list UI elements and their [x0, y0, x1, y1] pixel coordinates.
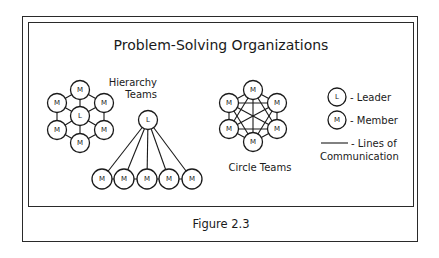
svg-text:M: M — [101, 99, 107, 107]
circle-member-node: M — [268, 120, 287, 139]
svg-text:M: M — [77, 86, 83, 94]
legend-line-label-1: - Lines of — [351, 138, 397, 149]
svg-text:M: M — [77, 139, 83, 147]
circle-teams-label: Circle Teams — [229, 162, 292, 173]
svg-text:L: L — [335, 93, 339, 101]
circle-member-node: M — [220, 94, 239, 113]
legend-member-icon: M — [328, 111, 346, 129]
svg-text:M: M — [99, 175, 105, 183]
circle-team: M M M M M M — [220, 81, 287, 152]
svg-text:M: M — [144, 175, 150, 183]
svg-text:L: L — [78, 112, 82, 120]
svg-text:M: M — [334, 116, 340, 124]
legend-leader-icon: L — [328, 88, 346, 106]
figure-caption: Figure 2.3 — [192, 217, 249, 231]
svg-text:M: M — [274, 99, 280, 107]
legend-member-label: - Member — [350, 115, 399, 126]
legend-leader-label: - Leader — [350, 92, 392, 103]
hex-member-node: M — [95, 121, 114, 140]
legend: L - Leader M - Member - Lines of Communi… — [320, 88, 399, 162]
hierarchy-label-line2: Teams — [124, 89, 157, 100]
svg-text:M: M — [54, 99, 60, 107]
hex-team: M M M L M M M — [48, 81, 114, 153]
svg-text:M: M — [226, 99, 232, 107]
svg-text:M: M — [250, 86, 256, 94]
hex-member-node: M — [71, 134, 90, 153]
circle-member-node: M — [220, 120, 239, 139]
diagram-title: Problem-Solving Organizations — [114, 37, 329, 53]
hex-member-node: M — [71, 81, 90, 100]
hex-member-node: M — [48, 94, 67, 113]
svg-text:M: M — [250, 138, 256, 146]
hex-member-node: M — [48, 121, 67, 140]
hierarchy-label-line1: Hierarchy — [109, 77, 157, 88]
hierarchy-member-node: M — [92, 169, 112, 189]
svg-text:M: M — [54, 126, 60, 134]
hierarchy-member-node: M — [182, 169, 202, 189]
svg-text:M: M — [121, 175, 127, 183]
hierarchy-member-node: M — [159, 169, 179, 189]
svg-text:M: M — [166, 175, 172, 183]
legend-line-label-2: Communication — [320, 151, 399, 162]
hex-member-node: M — [95, 94, 114, 113]
hierarchy-member-node: M — [137, 169, 157, 189]
svg-text:M: M — [274, 125, 280, 133]
circle-member-node: M — [268, 94, 287, 113]
hierarchy-member-node: M — [114, 169, 134, 189]
hierarchy-leader-node: L — [139, 111, 158, 130]
svg-text:M: M — [226, 125, 232, 133]
circle-member-node: M — [244, 81, 263, 100]
circle-member-node: M — [244, 133, 263, 152]
svg-text:M: M — [101, 126, 107, 134]
svg-text:M: M — [189, 175, 195, 183]
diagram-canvas: Problem-Solving Organizations M M M L M … — [0, 0, 439, 258]
hex-leader-node: L — [71, 107, 90, 126]
svg-text:L: L — [146, 116, 150, 124]
